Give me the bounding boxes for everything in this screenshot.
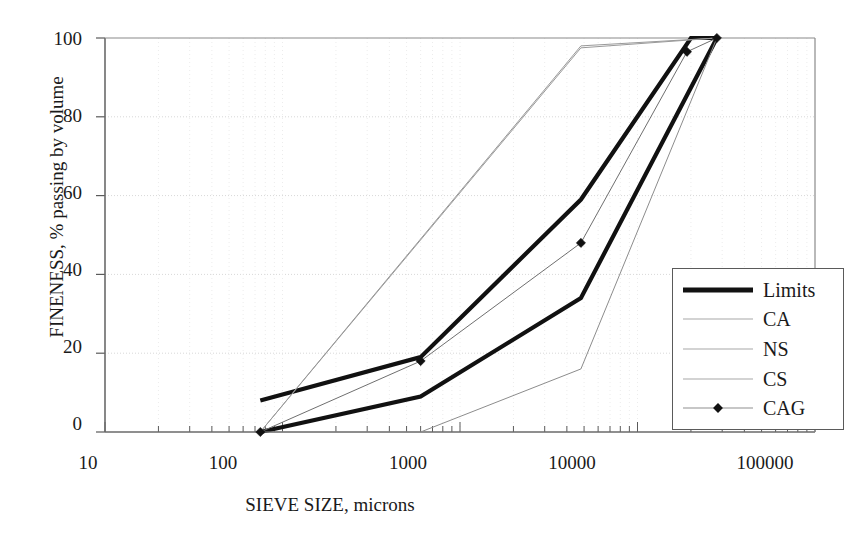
- legend-item-cs[interactable]: CS: [673, 365, 843, 392]
- data-series-layer: [256, 33, 722, 436]
- xtick-label-10000: 10000: [527, 452, 617, 474]
- legend-item-cag[interactable]: CAG: [673, 395, 843, 422]
- chart-container: 100 80 60 40 20 0 10 100 1000 10000 1000…: [0, 0, 866, 536]
- series-limits-0: [260, 38, 717, 400]
- legend-swatch-ca: [681, 312, 755, 326]
- legend: Limits CA NS CS CAG: [672, 268, 844, 430]
- xtick-label-100: 100: [193, 452, 253, 474]
- legend-item-ca[interactable]: CA: [673, 306, 843, 333]
- y-axis-title: FINENESS, % passing by volume: [46, 42, 68, 372]
- legend-swatch-cs: [681, 372, 755, 386]
- legend-label-limits: Limits: [763, 280, 815, 300]
- legend-label-ns: NS: [763, 339, 789, 359]
- legend-swatch-cag: [681, 401, 755, 415]
- x-axis-title: SIEVE SIZE, microns: [0, 494, 660, 516]
- legend-item-ns[interactable]: NS: [673, 335, 843, 362]
- legend-label-cag: CAG: [763, 398, 805, 418]
- xtick-label-10: 10: [58, 452, 118, 474]
- legend-swatch-ns: [681, 342, 755, 356]
- legend-swatch-limits: [681, 283, 755, 297]
- xtick-label-100000: 100000: [712, 452, 818, 474]
- legend-item-limits[interactable]: Limits: [673, 276, 843, 303]
- xtick-label-1000: 1000: [370, 452, 446, 474]
- legend-label-ca: CA: [763, 309, 791, 329]
- ytick-label-0: 0: [22, 413, 82, 435]
- diamond-marker-icon: [713, 403, 723, 413]
- legend-label-cs: CS: [763, 369, 787, 389]
